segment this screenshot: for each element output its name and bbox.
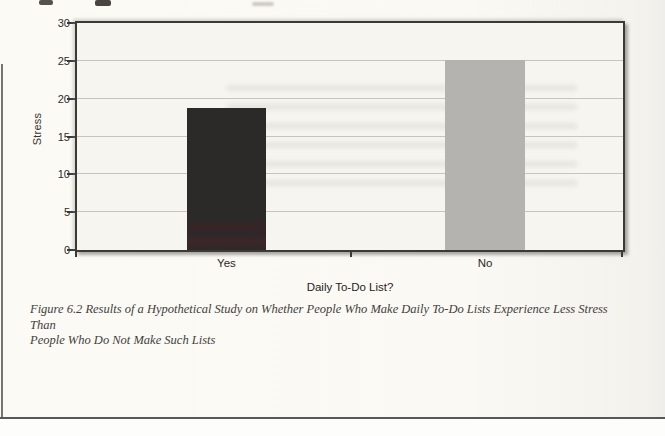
y-tick-label-15: 15 (40, 130, 70, 144)
y-tick-label-0: 0 (40, 243, 70, 257)
y-tick-label-30: 30 (40, 16, 70, 30)
x-category-label-yes: Yes (197, 257, 257, 269)
gridline-5 (77, 211, 623, 212)
gridline-20 (77, 98, 623, 99)
bar-no (445, 60, 525, 250)
figure-caption-line-1: Figure 6.2 Results of a Hypothetical Stu… (30, 302, 635, 333)
scan-artifact (39, 0, 53, 5)
gridline-15 (77, 136, 623, 137)
page-margin-bottom (0, 419, 665, 436)
gridline-25 (77, 60, 623, 61)
bar-yes (187, 108, 266, 250)
y-axis-tick-labels: 051015202530 (40, 21, 70, 252)
x-category-label-no: No (455, 257, 515, 269)
y-tick-label-10: 10 (40, 167, 70, 181)
gridline-10 (77, 173, 623, 174)
scan-artifact (252, 2, 274, 6)
y-tick-label-20: 20 (40, 92, 70, 106)
figure-caption-line-2: People Who Do Not Make Such Lists (30, 333, 635, 349)
x-axis-category-labels: YesNo (75, 257, 625, 273)
scanned-page: Stress 051015202530 YesNo Daily To-Do Li… (0, 0, 665, 436)
plot-area (75, 21, 625, 252)
x-axis-title: Daily To-Do List? (75, 281, 625, 293)
figure-caption: Figure 6.2 Results of a Hypothetical Stu… (30, 302, 635, 349)
y-tick-label-5: 5 (40, 205, 70, 219)
page-border-left (1, 64, 3, 419)
scan-artifact (95, 0, 111, 6)
y-tick-label-25: 25 (40, 54, 70, 68)
